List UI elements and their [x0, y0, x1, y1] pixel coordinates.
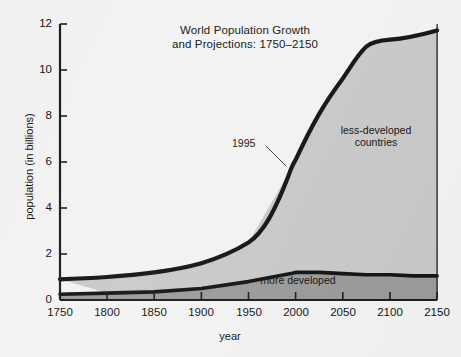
chart-canvas — [0, 0, 461, 357]
chart-figure: World Population Growthand Projections: … — [0, 0, 461, 357]
annotation-1995: 1995 — [232, 137, 266, 149]
chart-title-line2: and Projections: 1750–2150 — [172, 38, 318, 50]
x-tick-label-1900: 1900 — [178, 306, 224, 320]
y-tick-label-10: 10 — [26, 63, 52, 77]
annotation-less-developed-line2: countries — [355, 136, 398, 148]
y-tick-label-8: 8 — [26, 109, 52, 123]
y-tick-label-4: 4 — [26, 201, 52, 215]
x-tick-label-2050: 2050 — [320, 306, 366, 320]
annotation-more-developed: more developed — [245, 274, 351, 286]
chart-title: World Population Growthand Projections: … — [150, 24, 340, 51]
x-tick-label-1750: 1750 — [37, 306, 83, 320]
y-tick-label-0: 0 — [26, 293, 52, 307]
y-tick-label-2: 2 — [26, 247, 52, 261]
x-axis-label: year — [190, 330, 270, 343]
x-tick-label-1800: 1800 — [84, 306, 130, 320]
annotation-less-developed-line1: less-developed — [341, 124, 412, 136]
x-tick-label-2150: 2150 — [414, 306, 460, 320]
y-tick-label-6: 6 — [26, 155, 52, 169]
x-tick-label-1950: 1950 — [226, 306, 272, 320]
x-tick-label-1850: 1850 — [131, 306, 177, 320]
annotation-less-developed: less-developedcountries — [330, 124, 422, 149]
x-tick-label-2000: 2000 — [273, 306, 319, 320]
y-tick-label-12: 12 — [26, 17, 52, 31]
callout-leader-line-1995 — [266, 146, 286, 166]
area-less-developed — [60, 30, 437, 293]
x-tick-label-2100: 2100 — [367, 306, 413, 320]
chart-title-line1: World Population Growth — [180, 24, 310, 36]
